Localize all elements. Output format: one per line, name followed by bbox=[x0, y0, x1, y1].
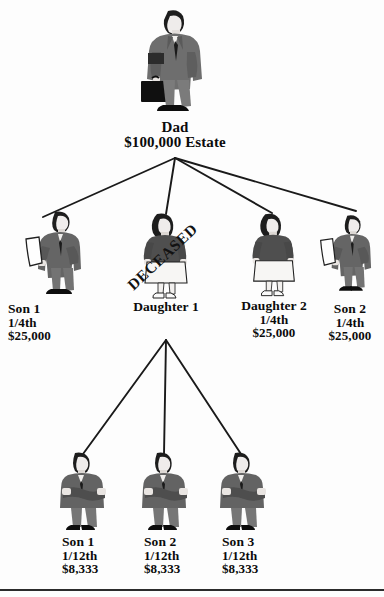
grandson-3-labels: Son 3 1/12th $8,333 bbox=[208, 535, 280, 575]
grandson-1-name: Son 1 bbox=[62, 535, 120, 549]
man-arms-crossed-icon bbox=[137, 451, 195, 535]
daughter-2-share: 1/4th bbox=[238, 313, 310, 326]
grandson-2-name: Son 2 bbox=[144, 535, 202, 549]
son-1-labels: Son 1 1/4th $25,000 bbox=[8, 302, 108, 342]
node-dad: Dad $100,000 Estate bbox=[115, 8, 235, 151]
daughter-1-labels: Daughter 1 bbox=[112, 300, 220, 314]
grandson-3-amount: $8,333 bbox=[222, 562, 280, 575]
son-1-name: Son 1 bbox=[8, 302, 108, 316]
dad-labels: Dad $100,000 Estate bbox=[115, 120, 235, 151]
man-arms-crossed-icon bbox=[215, 451, 273, 535]
edge-daughter1-to-grandson-3 bbox=[166, 340, 241, 454]
businessman-with-briefcase-icon bbox=[132, 8, 218, 120]
man-reading-document-icon bbox=[317, 210, 383, 302]
man-arms-crossed-icon bbox=[55, 451, 113, 535]
node-son-2: Son 2 1/4th $25,000 bbox=[316, 210, 384, 342]
edge-daughter1-to-grandson-2 bbox=[164, 340, 166, 454]
edge-dad-to-daughter-1 bbox=[166, 158, 175, 214]
son-2-labels: Son 2 1/4th $25,000 bbox=[316, 302, 384, 342]
son-2-amount: $25,000 bbox=[316, 329, 384, 342]
son-2-share: 1/4th bbox=[316, 316, 384, 329]
node-grandson-2: Son 2 1/12th $8,333 bbox=[130, 451, 202, 575]
woman-standing-icon bbox=[135, 212, 197, 300]
grandson-1-share: 1/12th bbox=[62, 549, 120, 562]
node-grandson-3: Son 3 1/12th $8,333 bbox=[208, 451, 280, 575]
node-daughter-2: Daughter 2 1/4th $25,000 bbox=[238, 211, 310, 339]
grandson-1-amount: $8,333 bbox=[62, 562, 120, 575]
grandson-3-name: Son 3 bbox=[222, 535, 280, 549]
woman-standing-icon bbox=[244, 211, 304, 299]
bottom-divider bbox=[0, 589, 384, 591]
node-grandson-1: Son 1 1/12th $8,333 bbox=[48, 451, 120, 575]
edge-dad-to-son-1 bbox=[43, 158, 175, 217]
estate-distribution-diagram: Dad $100,000 Estate Son 1 bbox=[0, 0, 384, 597]
dad-amount: $100,000 Estate bbox=[115, 135, 235, 150]
edge-daughter1-to-grandson-1 bbox=[83, 340, 166, 454]
dad-name: Dad bbox=[115, 120, 235, 135]
edge-dad-to-son-2 bbox=[175, 158, 356, 211]
son-2-name: Son 2 bbox=[316, 302, 384, 316]
grandson-1-labels: Son 1 1/12th $8,333 bbox=[48, 535, 120, 575]
grandson-2-share: 1/12th bbox=[144, 549, 202, 562]
edge-dad-to-daughter-2 bbox=[175, 158, 272, 213]
grandson-2-amount: $8,333 bbox=[144, 562, 202, 575]
daughter-1-name: Daughter 1 bbox=[112, 300, 220, 314]
grandson-2-labels: Son 2 1/12th $8,333 bbox=[130, 535, 202, 575]
node-son-1: Son 1 1/4th $25,000 bbox=[8, 210, 108, 342]
node-daughter-1: DECEASED Daughter 1 bbox=[112, 212, 220, 314]
son-1-amount: $25,000 bbox=[8, 329, 108, 342]
man-reading-document-icon bbox=[22, 210, 94, 302]
daughter-2-labels: Daughter 2 1/4th $25,000 bbox=[238, 299, 310, 339]
grandson-3-share: 1/12th bbox=[222, 549, 280, 562]
daughter-2-name: Daughter 2 bbox=[238, 299, 310, 313]
son-1-share: 1/4th bbox=[8, 316, 108, 329]
daughter-2-amount: $25,000 bbox=[238, 326, 310, 339]
